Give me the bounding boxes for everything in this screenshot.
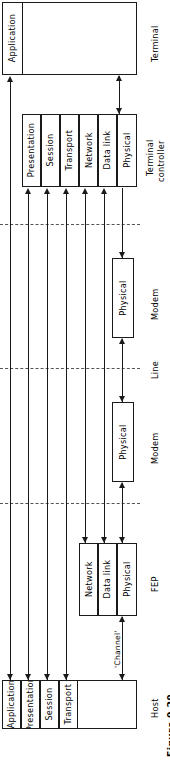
host-layer-transport-label: Transport [64, 684, 72, 725]
fep-layer-data-link-label: Data link [103, 560, 111, 599]
link-channel-fep-host [122, 617, 123, 680]
peer-link-network-head-down [82, 537, 88, 543]
peer-link-application-head-down [7, 674, 13, 680]
host-layer-transport: Transport [59, 680, 78, 729]
terminal-controller-layer-network: Network [79, 114, 98, 187]
peer-link-application [10, 82, 11, 680]
host-layer-session-label: Session [45, 688, 53, 721]
figure-caption: Figure 9.20 [166, 694, 170, 757]
terminal-controller-layer-session-label: Session [46, 134, 54, 167]
modem-upper-node-label: Modem [151, 288, 160, 320]
terminal-controller-layer-physical: Physical [117, 114, 137, 187]
terminal-controller-node-label-line1: Terminal [146, 139, 155, 176]
peer-link-network-head-up [82, 188, 88, 194]
terminal-controller-layer-physical-label: Physical [123, 133, 131, 168]
separator-dashed-modem-fep [0, 503, 140, 504]
fep-layer-network: Network [79, 543, 98, 616]
modem-lower-node-label: Modem [151, 432, 160, 464]
host-node-label: Host [151, 698, 160, 718]
modem-lower-layer-physical: Physical [112, 402, 134, 482]
peer-link-data-link-head-down [101, 537, 107, 543]
link-modem-lower-to-fep-head-up [119, 482, 125, 488]
fep-layer-network-label: Network [84, 562, 92, 598]
peer-link-presentation [28, 194, 29, 680]
link-channel-label: 'Channel' [114, 630, 123, 668]
modem-lower-layer-physical-label: Physical [119, 424, 127, 459]
fep-layer-physical-label: Physical [123, 562, 131, 597]
link-modem-lower-to-fep [122, 483, 123, 543]
fep-node-label: FEP [151, 576, 160, 592]
separator-dashed-terminal-controller-modem [0, 224, 140, 225]
host-layer-application: Application [2, 680, 21, 729]
peer-link-session-head-up [44, 188, 50, 194]
peer-link-network [85, 194, 86, 543]
terminal-layer-application: Application [2, 2, 23, 75]
peer-link-transport-head-up [63, 188, 69, 194]
link-controller-to-modem-upper-head-down [119, 252, 125, 258]
terminal-node-label: Terminal [151, 25, 160, 62]
figure-osi-terminal-host-diagram: Application Terminal Presentation Sessio… [0, 0, 170, 761]
link-line-label: Line [151, 361, 160, 379]
host-layer-application-label: Application [7, 680, 15, 729]
link-line-head-up [119, 338, 125, 344]
terminal-layer-application-label: Application [8, 14, 16, 63]
peer-link-session [47, 194, 48, 680]
terminal-controller-node-label-line2: controller [157, 140, 166, 182]
link-controller-to-modem-upper [122, 188, 123, 258]
peer-link-presentation-head-up [25, 188, 31, 194]
terminal-controller-layer-transport-label: Transport [65, 130, 73, 171]
host-layer-presentation-label: Presentation [26, 680, 34, 729]
terminal-controller-layer-data-link: Data link [98, 114, 117, 187]
terminal-controller-layer-session: Session [41, 114, 60, 187]
modem-upper-layer-physical: Physical [112, 258, 134, 338]
terminal-controller-layer-transport: Transport [60, 114, 79, 187]
host-layer-presentation: Presentation [21, 680, 40, 729]
modem-upper-layer-physical-label: Physical [119, 280, 127, 315]
link-line-between-modems [122, 339, 123, 402]
terminal-controller-layer-presentation: Presentation [22, 114, 41, 187]
peer-link-application-head-up [7, 76, 13, 82]
terminal-controller-layer-network-label: Network [84, 133, 92, 169]
fep-layer-data-link: Data link [98, 543, 117, 616]
separator-dashed-line [0, 368, 140, 369]
link-terminal-controller-physical-head-up [116, 75, 122, 81]
link-channel-head-up [119, 616, 125, 622]
fep-layer-physical: Physical [117, 543, 137, 616]
peer-link-data-link [104, 194, 105, 543]
terminal-controller-layer-data-link-label: Data link [103, 131, 111, 170]
peer-link-presentation-head-down [25, 674, 31, 680]
peer-link-session-head-down [44, 674, 50, 680]
peer-link-transport [66, 194, 67, 680]
terminal-controller-layer-presentation-label: Presentation [27, 123, 35, 177]
peer-link-data-link-head-up [101, 188, 107, 194]
host-layer-session: Session [40, 680, 59, 729]
peer-link-transport-head-down [63, 674, 69, 680]
